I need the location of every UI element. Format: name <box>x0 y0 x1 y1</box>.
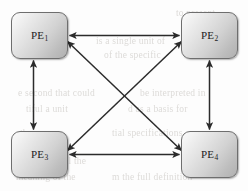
node-pe1[interactable]: PE1 <box>11 12 68 59</box>
node-pe4[interactable]: PE4 <box>181 131 238 178</box>
node-pe2-label: PE2 <box>201 30 218 41</box>
node-pe3-label: PE3 <box>31 149 48 160</box>
node-pe3[interactable]: PE3 <box>11 131 68 178</box>
node-pe1-label: PE1 <box>31 30 48 41</box>
node-pe2[interactable]: PE2 <box>181 12 238 59</box>
network-diagram-figure: is a single unit of of the specific nclu… <box>0 0 248 191</box>
node-pe4-label: PE4 <box>201 149 218 160</box>
